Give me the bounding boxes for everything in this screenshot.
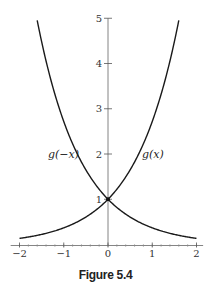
x-tick-label: 2 (193, 248, 199, 259)
curve-g-x (20, 20, 179, 238)
y-tick-label: 3 (96, 103, 102, 114)
curve-g-neg-x (37, 20, 196, 238)
labels: g(x)g(−x) (48, 148, 164, 161)
y-tick-label: 4 (96, 58, 102, 69)
label-g-x: g(x) (142, 148, 164, 161)
x-tick-label: −2 (12, 248, 27, 259)
x-tick-label: 1 (149, 248, 155, 259)
label-g-neg-x: g(−x) (48, 148, 79, 161)
y-tick-label: 5 (96, 13, 102, 24)
y-tick-label: 1 (96, 194, 102, 205)
chart: −2−101212345 g(x)g(−x) (0, 0, 211, 285)
x-tick-label: 0 (105, 248, 111, 259)
x-tick-label: −1 (56, 248, 71, 259)
y-tick-label: 2 (96, 149, 102, 160)
figure-caption: Figure 5.4 (0, 268, 211, 282)
axes: −2−101212345 (11, 13, 203, 259)
intersection-point (106, 197, 110, 201)
